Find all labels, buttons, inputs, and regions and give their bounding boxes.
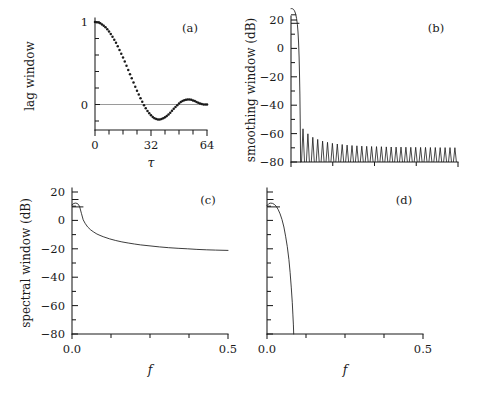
panel-b-y-axis-label: smoothing window (dB) (244, 18, 258, 162)
panel-b-ytick-0: 0 (277, 41, 284, 55)
panel-d-x-ticks (267, 334, 423, 339)
panel-c-ytick-neg40: −40 (41, 270, 65, 284)
panel-c-ytick-20: 20 (50, 185, 65, 199)
panel-a-x-ticks (95, 130, 207, 136)
panel-c-curve (72, 203, 228, 250)
panel-d-plot: 0.0 0.5 f (d) (243, 180, 486, 393)
panel-b-x-ticks (291, 162, 458, 167)
panel-a-letter: (a) (182, 21, 198, 35)
panel-a-y-ticks (95, 22, 100, 121)
panel-a-y-axis-label: lag window (23, 41, 37, 111)
panel-a-x-axis-label: τ (148, 155, 156, 170)
panel-c-plot: 20 0 −20 −40 −60 −80 0.0 0.5 f spectral … (0, 180, 243, 393)
panel-c-x-axis-label: f (147, 362, 155, 377)
panel-b-y-ticks (291, 20, 297, 162)
panel-c-letter: (c) (200, 193, 215, 207)
panel-c: 20 0 −20 −40 −60 −80 0.0 0.5 f spectral … (0, 180, 243, 393)
panel-a-plot: 1 0 0 32 64 τ lag window (a) (0, 0, 243, 180)
panel-a-ytick-0: 0 (81, 98, 88, 112)
panel-a-xtick-32: 32 (144, 138, 159, 152)
panel-c-x-ticks (72, 334, 228, 339)
panel-b-ytick-20: 20 (269, 13, 284, 27)
panel-d-x-axis-label: f (342, 362, 350, 377)
panel-c-xtick-05: 0.5 (219, 342, 237, 356)
panel-a-lag-window-points (94, 21, 209, 121)
panel-b: 20 0 −20 −40 −60 −80 smoothing window (d… (243, 0, 486, 180)
panel-d: 0.0 0.5 f (d) (243, 180, 486, 393)
panel-d-xtick-05: 0.5 (414, 342, 432, 356)
panel-d-curve (267, 203, 294, 334)
panel-b-ytick-neg20: −20 (260, 70, 284, 84)
panel-b-ytick-neg40: −40 (260, 98, 284, 112)
panel-b-ytick-neg60: −60 (260, 127, 284, 141)
panel-c-xtick-0: 0.0 (63, 342, 81, 356)
panel-b-main-lobe (291, 9, 301, 162)
panel-a-ytick-1: 1 (81, 15, 88, 29)
panel-a-xtick-0: 0 (91, 138, 98, 152)
panel-c-ytick-neg80: −80 (41, 327, 65, 341)
panel-d-letter: (d) (396, 193, 412, 207)
panel-b-sidelobes (302, 129, 457, 162)
figure-window-functions: 1 0 0 32 64 τ lag window (a) (0, 0, 486, 393)
panel-d-y-ticks (267, 192, 273, 334)
panel-c-ytick-0: 0 (58, 213, 65, 227)
panel-c-ytick-neg20: −20 (41, 242, 65, 256)
panel-b-plot: 20 0 −20 −40 −60 −80 smoothing window (d… (243, 0, 486, 180)
panel-b-letter: (b) (428, 21, 444, 35)
panel-c-y-ticks (72, 192, 78, 334)
panel-c-ytick-neg60: −60 (41, 299, 65, 313)
panel-a: 1 0 0 32 64 τ lag window (a) (0, 0, 243, 180)
panel-b-ytick-neg80: −80 (260, 155, 284, 169)
panel-d-xtick-0: 0.0 (258, 342, 276, 356)
panel-c-y-axis-label: spectral window (dB) (19, 198, 33, 328)
panel-a-xtick-64: 64 (200, 138, 215, 152)
